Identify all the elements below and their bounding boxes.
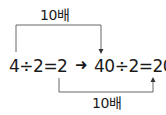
top-multiplier-label: 10배 — [40, 8, 69, 22]
left-equation: 4÷2=2 — [9, 58, 67, 75]
top-arrowhead-icon — [99, 49, 104, 54]
right-arrow-icon: ➜ — [75, 58, 87, 73]
top-bracket-line — [16, 25, 101, 52]
right-equation: 40÷2=20 — [94, 58, 166, 75]
bottom-arrowhead-icon — [151, 77, 156, 82]
bottom-bracket-line — [59, 78, 153, 92]
bottom-multiplier-label: 10배 — [92, 96, 121, 110]
